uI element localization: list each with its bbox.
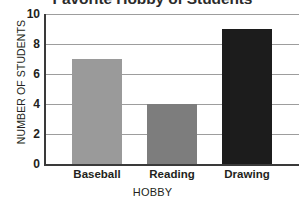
bar-baseball <box>72 59 122 164</box>
y-tick-label-2: 2 <box>18 128 40 140</box>
x-tick-label-drawing: Drawing <box>202 168 292 180</box>
gridline-10 <box>44 14 299 15</box>
x-axis-title: HOBBY <box>0 186 305 198</box>
y-tick-label-8: 8 <box>18 38 40 50</box>
y-tick-label-10: 10 <box>18 8 40 20</box>
chart-title: Favorite Hobby of Students <box>0 0 305 8</box>
y-tick-label-4: 4 <box>18 98 40 110</box>
y-tick-label-0: 0 <box>18 158 40 170</box>
plot-area <box>44 14 299 164</box>
y-axis-tick-labels: 0 2 4 6 8 10 <box>14 14 40 164</box>
bar-reading <box>147 104 197 164</box>
bar-chart: Favorite Hobby of Students NUMBER OF STU… <box>0 0 305 207</box>
x-axis-line <box>44 164 299 166</box>
y-axis-line <box>44 14 46 164</box>
bar-drawing <box>222 29 272 164</box>
y-tick-label-6: 6 <box>18 68 40 80</box>
